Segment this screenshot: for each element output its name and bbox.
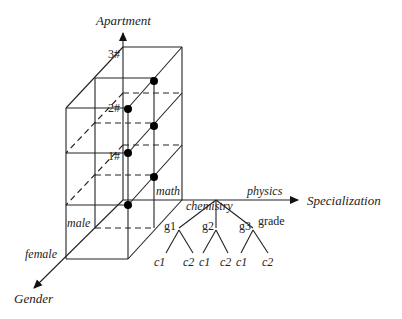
data-point [124,149,132,157]
node-g1: g1 [164,219,176,233]
leaf-g3-c2: c2 [262,255,273,269]
data-point [150,77,158,85]
axes [34,33,298,288]
data-points [124,77,158,209]
leaf-g3-c1: c1 [236,255,247,269]
data-point [124,105,132,113]
node-g3: g3 [239,219,251,233]
data-point [150,122,158,130]
leaf-g2-c2: c2 [220,255,231,269]
gender-axis [34,200,123,288]
specialization-physics: physics [246,184,283,198]
level-label-2: 2# [108,101,120,115]
leaf-g1-c1: c1 [154,255,165,269]
leaf-g2-c1: c1 [199,255,210,269]
gender-axis-label: Gender [14,291,54,306]
level-label-1: 1# [108,149,120,163]
specialization-chemistry: chemistry [186,199,233,213]
gender-female: female [25,247,58,261]
leaf-g1-c2: c2 [183,255,194,269]
gender-male: male [67,216,91,230]
cube-front-plane [66,108,128,259]
level-label-3: 3# [108,47,120,61]
data-cube-diagram: Apartment Specialization Gender 1# 2# 3#… [0,0,402,319]
apartment-axis-label: Apartment [95,13,151,28]
data-point [124,201,132,209]
specialization-math: math [156,184,180,198]
specialization-axis-label: Specialization [307,193,381,208]
data-point [150,173,158,181]
node-g2: g2 [202,219,214,233]
grade-label: grade [258,214,285,228]
